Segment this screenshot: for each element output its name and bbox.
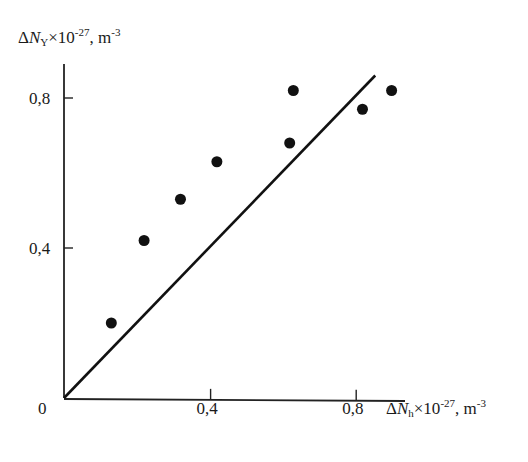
- x-tick-label: 0,4: [197, 399, 219, 418]
- reference-line: [64, 76, 375, 399]
- axes: [64, 64, 405, 401]
- fit-line: [64, 76, 375, 399]
- data-point: [139, 235, 150, 246]
- y-tick-label: 0,8: [29, 89, 50, 108]
- origin-label: 0: [38, 399, 47, 418]
- axis-labels: 0,40,80,40,80ΔNY×10-27, m-3ΔNh×10-27, m-…: [18, 26, 486, 419]
- data-point: [106, 318, 117, 329]
- data-point: [386, 85, 397, 96]
- x-axis-label: ΔNh×10-27, m-3: [386, 397, 486, 419]
- data-point: [284, 138, 295, 149]
- data-points: [106, 85, 397, 329]
- x-tick-label: 0,8: [342, 399, 363, 418]
- data-point: [357, 104, 368, 115]
- y-axis-label: ΔNY×10-27, m-3: [18, 26, 121, 48]
- data-point: [211, 156, 222, 167]
- data-point: [175, 194, 186, 205]
- scatter-chart: 0,40,80,40,80ΔNY×10-27, m-3ΔNh×10-27, m-…: [0, 0, 528, 462]
- data-point: [288, 85, 299, 96]
- y-tick-label: 0,4: [29, 239, 51, 258]
